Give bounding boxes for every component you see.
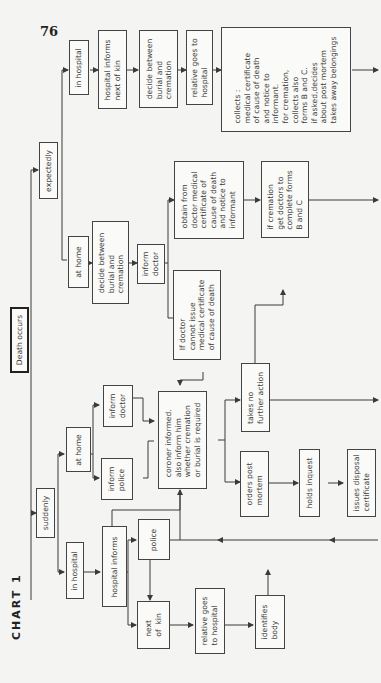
exp-inform-doctor-node: inform doctor	[137, 244, 165, 284]
sud-hospital-informs-node: hospital informs	[102, 526, 127, 607]
exp-if-cremation-node: if cremation get doctors to complete for…	[261, 161, 309, 238]
suddenly-node: suddenly	[36, 488, 55, 538]
sud-inform-police-node: inform police	[101, 458, 133, 500]
takes-no-action-node: takes no further action	[241, 363, 270, 432]
police-node: police	[138, 519, 170, 560]
relative-goes-hospital-node: relative goes to hospital	[195, 588, 225, 654]
exp-doctor-cannot-node: If doctor cannot issue medical certifica…	[173, 270, 221, 360]
exp-at-home-node: at home	[68, 236, 89, 288]
death-occurs-node: Death occurs	[10, 307, 29, 373]
coroner-node: coroner informed. also inform him whethe…	[158, 391, 207, 489]
exp-obtain-node: obtain from doctor medical certificate o…	[174, 161, 244, 239]
exp-decide-hospital-node: decide between burial and cremation	[139, 30, 178, 108]
exp-decide-home-node: decide between burial and cremation	[92, 221, 129, 304]
expectedly-node: expectedly	[39, 142, 58, 199]
sud-inform-doctor-node: inform doctor	[103, 385, 133, 427]
holds-inquest-node: holds inquest	[299, 449, 320, 517]
exp-hospital-informs-node: hospital informs next of kin	[98, 30, 127, 109]
orders-pm-node: orders post mortem	[240, 451, 269, 517]
next-of-kin-node: next of kin	[137, 601, 170, 649]
exp-collects-node: collects : medical certificate of cause …	[221, 27, 351, 132]
identifies-body-node: identifies body	[255, 595, 285, 649]
sud-in-hospital-node: in hospital	[66, 542, 84, 599]
exp-relative-goes-node: relative goes to hospital	[186, 30, 213, 105]
exp-in-hospital-node: in hospital	[69, 40, 89, 95]
sud-at-home-node: at home	[66, 427, 91, 472]
issues-disposal-node: issues disposal certificate	[347, 449, 376, 517]
